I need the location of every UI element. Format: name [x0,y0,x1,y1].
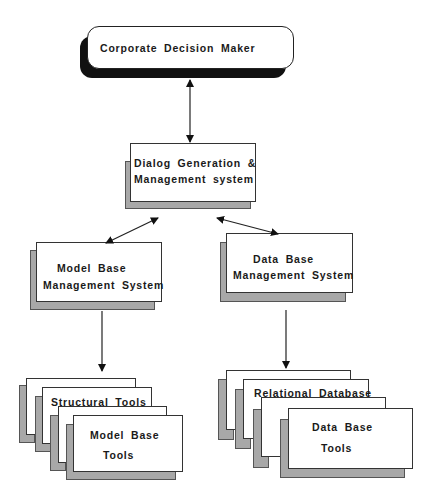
arrow-dialog-mbms [106,218,158,243]
connector-arrows [0,0,437,501]
arrow-dialog-dbms [217,218,278,234]
